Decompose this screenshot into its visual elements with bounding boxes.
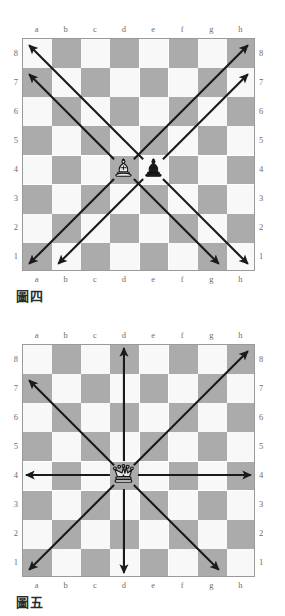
square-c1 [81, 243, 110, 271]
square-g8 [198, 39, 227, 68]
square-c2 [81, 214, 110, 243]
rank-label-6: 6 [259, 106, 269, 116]
square-c3 [81, 491, 110, 520]
file-label-h: h [234, 274, 246, 284]
rank-label-6: 6 [8, 106, 18, 116]
square-b3 [52, 185, 81, 214]
square-c2 [81, 520, 110, 549]
square-d6 [110, 403, 139, 432]
rank-label-5: 5 [259, 135, 269, 145]
file-label-b: b [60, 24, 72, 34]
square-e8 [140, 39, 169, 68]
square-g3 [198, 185, 227, 214]
square-a6 [23, 403, 52, 432]
square-b4 [52, 462, 81, 491]
square-a1 [23, 243, 52, 271]
square-h6 [227, 403, 255, 432]
file-label-f: f [176, 274, 188, 284]
square-f5 [169, 432, 198, 461]
file-label-a: a [31, 580, 43, 590]
rank-label-2: 2 [8, 528, 18, 538]
square-e7 [140, 374, 169, 403]
square-e1 [140, 549, 169, 577]
rank-label-1: 1 [259, 251, 269, 261]
square-d1 [110, 243, 139, 271]
rank-label-4: 4 [8, 470, 18, 480]
rank-label-5: 5 [259, 441, 269, 451]
square-g5 [198, 432, 227, 461]
square-b6 [52, 97, 81, 126]
square-c1 [81, 549, 110, 577]
square-f6 [169, 403, 198, 432]
black-bishop-e4 [139, 155, 168, 184]
square-h7 [227, 68, 255, 97]
square-f4 [169, 156, 198, 185]
square-a2 [23, 520, 52, 549]
square-b2 [52, 214, 81, 243]
square-a5 [23, 126, 52, 155]
square-g4 [198, 156, 227, 185]
square-c7 [81, 68, 110, 97]
rank-label-5: 5 [8, 135, 18, 145]
file-label-c: c [89, 274, 101, 284]
square-b7 [52, 68, 81, 97]
square-h2 [227, 520, 255, 549]
square-d1 [110, 549, 139, 577]
square-e1 [140, 243, 169, 271]
square-h8 [227, 39, 255, 68]
square-a4 [23, 462, 52, 491]
figure-four-bishop-diagram: aabbccddeeffgghh8877665544332211 圖四 [0, 0, 285, 308]
square-d7 [110, 68, 139, 97]
file-label-b: b [60, 580, 72, 590]
square-a6 [23, 97, 52, 126]
rank-label-3: 3 [8, 193, 18, 203]
rank-label-2: 2 [8, 222, 18, 232]
square-f5 [169, 126, 198, 155]
square-d8 [110, 39, 139, 68]
square-b4 [52, 156, 81, 185]
file-label-f: f [176, 24, 188, 34]
figure-five-queen-diagram: aabbccddeeffgghh8877665544332211 圖五 [0, 306, 285, 616]
file-label-d: d [118, 24, 130, 34]
rank-label-8: 8 [259, 48, 269, 58]
rank-label-3: 3 [259, 499, 269, 509]
square-d3 [110, 491, 139, 520]
square-c6 [81, 403, 110, 432]
square-a2 [23, 214, 52, 243]
rank-label-7: 7 [8, 383, 18, 393]
file-label-a: a [31, 330, 43, 340]
square-d8 [110, 345, 139, 374]
square-g6 [198, 403, 227, 432]
square-e6 [140, 97, 169, 126]
square-h4 [227, 462, 255, 491]
rank-label-4: 4 [259, 470, 269, 480]
chessboard [22, 344, 255, 577]
square-c8 [81, 345, 110, 374]
square-e5 [140, 432, 169, 461]
square-a5 [23, 432, 52, 461]
square-a3 [23, 491, 52, 520]
square-d5 [110, 126, 139, 155]
square-g4 [198, 462, 227, 491]
square-a7 [23, 374, 52, 403]
white-bishop-d4 [109, 155, 138, 184]
square-g1 [198, 243, 227, 271]
rank-label-5: 5 [8, 441, 18, 451]
rank-label-8: 8 [8, 354, 18, 364]
square-e3 [140, 491, 169, 520]
file-label-b: b [60, 274, 72, 284]
file-label-e: e [147, 580, 159, 590]
square-h6 [227, 97, 255, 126]
square-b6 [52, 403, 81, 432]
file-label-g: g [205, 330, 217, 340]
square-h3 [227, 491, 255, 520]
square-b8 [52, 39, 81, 68]
square-e6 [140, 403, 169, 432]
file-label-c: c [89, 580, 101, 590]
rank-label-1: 1 [8, 251, 18, 261]
square-f3 [169, 491, 198, 520]
file-label-a: a [31, 274, 43, 284]
file-label-e: e [147, 24, 159, 34]
square-g3 [198, 491, 227, 520]
rank-label-1: 1 [259, 557, 269, 567]
